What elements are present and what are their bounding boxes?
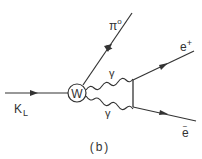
electron-label: e− <box>182 122 189 140</box>
positron-line <box>133 51 194 80</box>
kaon-line <box>5 90 68 96</box>
feynman-diagram: W KL πo γ γ e+ e− (b) <box>0 0 202 159</box>
arrow-icon <box>159 63 168 70</box>
positron-label: e+ <box>180 38 192 54</box>
electron-line <box>133 107 196 121</box>
w-vertex: W <box>68 84 86 102</box>
photon-lower-label: γ <box>105 107 111 119</box>
photon-upper <box>86 78 133 90</box>
caption: (b) <box>90 140 111 154</box>
arrow-icon <box>30 90 38 96</box>
vertex-label: W <box>71 87 83 101</box>
pion-line <box>83 13 132 85</box>
kaon-label: KL <box>14 102 28 118</box>
photon-upper-label: γ <box>109 67 115 79</box>
